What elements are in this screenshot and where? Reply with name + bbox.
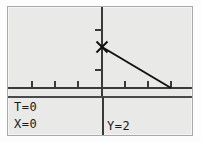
t-value-readout: T=0 <box>14 99 100 116</box>
y-value-readout: Y=2 <box>107 118 191 135</box>
calculator-screen: T=0 X=0 Y=2 <box>0 0 201 142</box>
status-left-group: T=0 X=0 <box>14 99 100 133</box>
x-value-readout: X=0 <box>14 116 100 133</box>
status-right-group: Y=2 <box>107 118 191 135</box>
status-readout-bar: T=0 X=0 Y=2 <box>8 97 192 135</box>
status-bar-vertical-divider <box>102 97 104 135</box>
status-bar-top-divider <box>8 96 192 98</box>
plotted-line-segment <box>102 47 171 88</box>
graph-plot-area[interactable] <box>8 7 192 97</box>
graph-svg <box>8 7 192 97</box>
